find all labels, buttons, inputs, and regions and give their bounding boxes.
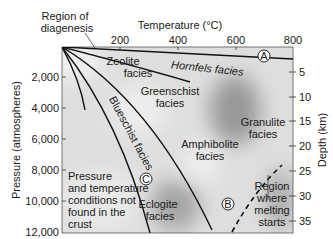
not-found-line-5: crust [68, 218, 92, 230]
diagenesis-pointer [85, 33, 95, 48]
melting-line-2: where [256, 192, 287, 204]
x-tick-400: 400 [169, 34, 187, 46]
x-tick-200: 200 [111, 34, 129, 46]
svg-text:B: B [224, 198, 231, 210]
not-found-line-2: and temperature [68, 182, 149, 194]
y-tick-6000: 6,000 [31, 133, 59, 145]
depth-tick-5: 5 [299, 66, 305, 78]
amphibolite-label-1: Amphibolite [181, 138, 238, 150]
melting-line-3: melting [254, 204, 289, 216]
depth-tick-10: 10 [299, 91, 311, 103]
y-axis-right-label: Depth (km) [316, 113, 328, 167]
depth-tick-20: 20 [299, 140, 311, 152]
melting-line-1: Region [255, 180, 290, 192]
not-found-line-3: conditions not [68, 194, 136, 206]
depth-tick-30: 30 [299, 190, 311, 202]
y-tick-8000: 8,000 [31, 164, 59, 176]
metamorphic-facies-diagram: 200 400 600 800 Temperature (°C) Region … [0, 0, 333, 239]
not-found-line-1: Pressure [68, 170, 112, 182]
x-tick-600: 600 [227, 34, 245, 46]
granulite-label-1: Granulite [241, 116, 286, 128]
granulite-label-2: facies [249, 128, 278, 140]
x-axis-label: Temperature (°C) [138, 19, 222, 31]
marker-a: A [258, 50, 270, 62]
y-tick-10000: 10,000 [25, 195, 59, 207]
greenschist-label-2: facies [156, 97, 185, 109]
depth-tick-15: 15 [299, 115, 311, 127]
eclogite-label-2: facies [146, 210, 175, 222]
diagenesis-label-1: Region of [41, 10, 89, 22]
not-found-line-4: found in the [68, 206, 126, 218]
melting-line-4: starts [259, 216, 286, 228]
svg-text:C: C [142, 173, 150, 185]
y-tick-12000: 12,000 [25, 226, 59, 238]
zeolite-label-2: facies [124, 67, 153, 79]
y-tick-4000: 4,000 [31, 102, 59, 114]
depth-tick-35: 35 [299, 215, 311, 227]
svg-text:A: A [260, 50, 268, 62]
marker-c: C [140, 173, 152, 185]
diagenesis-label-2: diagenesis [41, 22, 94, 34]
amphibolite-label-2: facies [196, 150, 225, 162]
depth-tick-25: 25 [299, 165, 311, 177]
y-axis-left-label: Pressure (atmospheres) [10, 81, 22, 199]
eclogite-label-1: Eclogite [138, 198, 177, 210]
y-tick-2000: 2,000 [31, 71, 59, 83]
x-tick-800: 800 [284, 34, 302, 46]
marker-b: B [222, 198, 234, 210]
zeolite-label-1: Zeolite [106, 55, 139, 67]
greenschist-label-1: Greenschist [141, 85, 200, 97]
